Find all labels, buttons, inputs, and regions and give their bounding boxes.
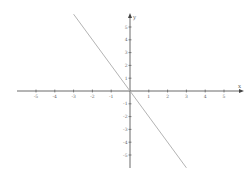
- x-tick-label: 5: [223, 94, 226, 99]
- y-tick-label: 5: [125, 25, 128, 30]
- x-tick-label: 3: [185, 94, 188, 99]
- x-tick-label: 1: [147, 94, 150, 99]
- y-tick-label: -1: [123, 101, 128, 106]
- y-tick-label: 4: [125, 37, 128, 42]
- axes: [17, 13, 244, 168]
- x-tick-label: -3: [71, 94, 76, 99]
- x-tick-label: 4: [204, 94, 207, 99]
- x-tick-label: -1: [109, 94, 114, 99]
- y-tick-label: -2: [123, 114, 128, 119]
- x-tick-label: -2: [90, 94, 95, 99]
- y-tick-label: -4: [123, 140, 128, 145]
- x-axis-label: x: [238, 83, 242, 89]
- y-tick-label: 3: [125, 50, 128, 55]
- y-tick-label: 2: [125, 63, 128, 68]
- x-tick-label: -4: [53, 94, 58, 99]
- x-axis-arrow-icon: [239, 89, 244, 93]
- y-tick-label: -5: [123, 153, 128, 158]
- x-tick-label: -5: [34, 94, 39, 99]
- y-tick-label: 1: [125, 76, 128, 81]
- y-tick-label: -3: [123, 127, 128, 132]
- y-axis-arrow-icon: [128, 13, 132, 18]
- x-tick-label: 2: [166, 94, 169, 99]
- y-axis-label: y: [132, 14, 137, 21]
- coordinate-plane: -5-4-3-2-112345-5-4-3-2-112345 x y: [0, 0, 249, 180]
- chart-container: -5-4-3-2-112345-5-4-3-2-112345 x y: [0, 0, 249, 180]
